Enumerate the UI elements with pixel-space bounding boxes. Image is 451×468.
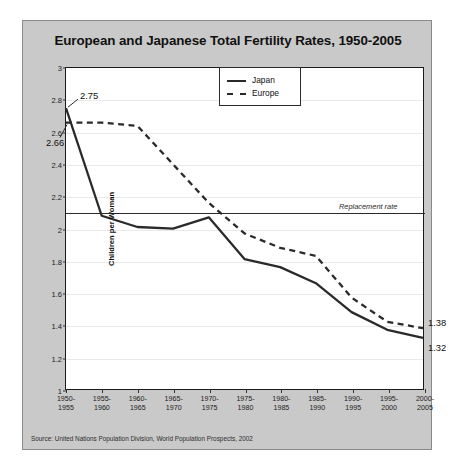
legend-label-japan: Japan [252, 75, 275, 85]
japan-start-leader [68, 99, 78, 107]
europe-start-value: 2.66 [46, 137, 64, 148]
chart-legend: Japan Europe [219, 67, 301, 106]
y-axis-tick-label: 2 [58, 225, 62, 234]
y-axis-tick-label: 2.6 [51, 128, 62, 137]
y-axis-tick-label: 1.8 [51, 257, 62, 266]
chart-title: European and Japanese Total Fertility Ra… [23, 33, 433, 48]
x-axis-tick-label: 1980-1985 [272, 395, 290, 412]
y-axis-tick-label: 1.6 [51, 290, 62, 299]
x-axis-tick-mark [317, 389, 318, 393]
japan-end-value: 1.32 [428, 342, 446, 353]
legend-item-europe: Europe [227, 86, 293, 99]
x-axis-tick-mark [246, 389, 247, 393]
x-axis-tick-label: 1990-1995 [344, 395, 362, 412]
x-axis-tick-mark [66, 389, 67, 393]
x-axis-tick-mark [138, 389, 139, 393]
x-axis-tick-label: 1970-1975 [201, 395, 219, 412]
source-note: Source: United Nations Population Divisi… [31, 435, 253, 442]
y-axis-tick-label: 1.4 [51, 322, 62, 331]
y-axis-tick-label: 2.8 [51, 96, 62, 105]
x-axis-tick-label: 1995-2000 [380, 395, 398, 412]
series-line-europe [66, 123, 423, 329]
x-axis-tick-label: 1985-1990 [308, 395, 326, 412]
y-axis-tick-label: 3 [58, 64, 62, 73]
plot-frame: 11.21.41.61.822.22.42.62.83 1950-1955195… [65, 67, 424, 390]
japan-start-value: 2.75 [80, 90, 98, 101]
x-axis-tick-label: 1950-1955 [57, 395, 75, 412]
x-axis-tick-mark [174, 389, 175, 393]
legend-swatch-dashed-icon [227, 89, 246, 97]
x-axis-tick-mark [102, 389, 103, 393]
legend-item-japan: Japan [227, 73, 293, 86]
x-axis-tick-label: 1975-1980 [236, 395, 254, 412]
series-lines [66, 68, 423, 389]
y-axis-tick-label: 2.4 [51, 160, 62, 169]
x-axis-tick-mark [353, 389, 354, 393]
series-line-japan [66, 108, 423, 338]
x-axis-tick-mark [210, 389, 211, 393]
y-axis-tick-label: 1.2 [51, 354, 62, 363]
y-axis-tick-label: 2.2 [51, 193, 62, 202]
figure-card: European and Japanese Total Fertility Ra… [22, 20, 432, 450]
x-axis-tick-label: 2000-2005 [416, 395, 434, 412]
x-axis-tick-mark [389, 389, 390, 393]
x-axis-tick-label: 1960-1965 [129, 395, 147, 412]
legend-swatch-solid-icon [227, 76, 246, 84]
x-axis-tick-mark [281, 389, 282, 393]
plot-area: 11.21.41.61.822.22.42.62.83 1950-1955195… [66, 68, 423, 389]
x-axis-tick-label: 1955-1960 [93, 395, 111, 412]
legend-label-europe: Europe [252, 88, 279, 98]
y-axis-title: Children per Woman [107, 191, 116, 265]
x-axis-tick-label: 1965-1970 [165, 395, 183, 412]
europe-end-value: 1.38 [428, 317, 446, 328]
x-axis-tick-mark [425, 389, 426, 393]
